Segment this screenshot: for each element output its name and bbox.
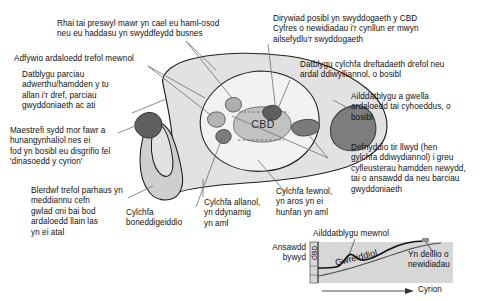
- annotation-cbd-decline: Dirywiad posibl yn swyddogaeth y CBD Cyf…: [273, 14, 485, 45]
- chart-series-label-newidiadau: Yn deillio o newidiadau: [408, 250, 488, 271]
- annotation-brownfield: Defnyddio tir llwyd (hen gylchfa ddiwydi…: [351, 143, 489, 195]
- blob-edge-city-left: [135, 113, 162, 138]
- annotation-large-houses: Rhai tai preswyl mawr yn cael eu haml-os…: [57, 19, 253, 40]
- annotation-heritage-zone: Datblygu cylchfa dreftadaeth drefol neu …: [300, 60, 488, 81]
- blob-upper-small: [225, 98, 241, 112]
- annotation-retail-leisure-parks: Datblygu parciau adwerthu/hamdden y tu a…: [22, 70, 132, 112]
- annotation-edge-cities: Maestrefi sydd mor fawr a hunangynhaliol…: [10, 126, 132, 168]
- annotation-public-housing: Ailddatblygu a gwella ardaloedd tai cyho…: [351, 92, 481, 123]
- chart-annotation-inner-redevelopment: Ailddatblygu mewnol: [313, 229, 443, 239]
- annotation-urban-sprawl: Blerdwf trefol parhaus yn meddiannu cefn…: [31, 186, 139, 238]
- annotation-inner-zone: Cylchfa fewnol, yn aros yn ei hunfan yn …: [276, 187, 358, 218]
- chart-xlabel: Cyrion: [418, 285, 478, 295]
- annotation-inner-city-renewal: Adfywio ardaloedd trefol mewnol: [14, 54, 174, 64]
- annotation-outer-zone: Cylchfa allanol, yn ddynamig yn aml: [204, 198, 282, 229]
- annotation-gentrification: Cylchfa boneddigeiddio: [126, 208, 206, 229]
- diagram-canvas: CBD: [0, 0, 492, 301]
- chart-x-arrowhead: [405, 288, 414, 294]
- chart-origin-label: CBD: [311, 246, 318, 260]
- leader-retail-parks: [132, 99, 166, 113]
- chart-ylabel: Ansawdd bywyd: [249, 243, 306, 264]
- blob-gentrification: [216, 130, 231, 144]
